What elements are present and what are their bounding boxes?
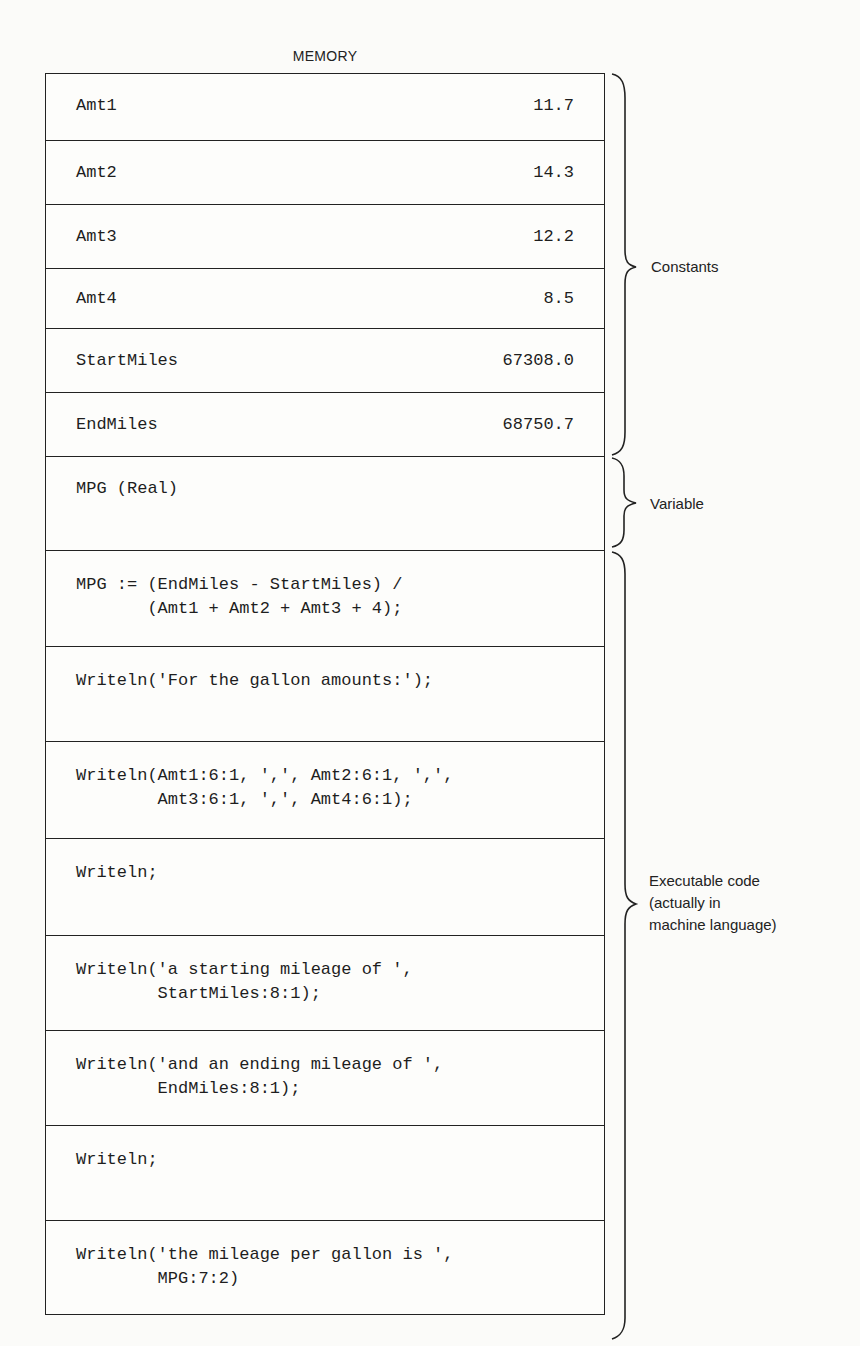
code-cell: Writeln('the mileage per gallon is ', MP…: [46, 1220, 604, 1314]
code-cell: Writeln(Amt1:6:1, ',', Amt2:6:1, ',', Am…: [46, 741, 604, 838]
memory-cell-amt1: Amt1 11.7: [46, 74, 604, 140]
cell-name: Amt4: [76, 289, 117, 308]
code-text: Writeln('the mileage per gallon is ', MP…: [76, 1243, 453, 1291]
executable-label-line3: machine language): [649, 915, 777, 935]
memory-cell-mpg-variable: MPG (Real): [46, 456, 604, 550]
cell-name: Amt1: [76, 96, 117, 115]
cell-name: Amt2: [76, 163, 117, 182]
variable-label: Variable: [650, 494, 704, 514]
executable-brace-icon: [612, 552, 636, 1339]
code-text: Writeln('For the gallon amounts:');: [76, 669, 433, 693]
memory-cell-startmiles: StartMiles 67308.0: [46, 328, 604, 392]
executable-label-line2: (actually in: [649, 893, 721, 913]
code-cell: Writeln('and an ending mileage of ', End…: [46, 1030, 604, 1125]
cell-name: Amt3: [76, 227, 117, 246]
code-text: Writeln('and an ending mileage of ', End…: [76, 1053, 443, 1101]
cell-value: 12.2: [533, 227, 574, 246]
memory-cell-amt4: Amt4 8.5: [46, 268, 604, 328]
memory-cell-amt2: Amt2 14.3: [46, 140, 604, 204]
code-cell: Writeln('a starting mileage of ', StartM…: [46, 935, 604, 1030]
code-text: Writeln(Amt1:6:1, ',', Amt2:6:1, ',', Am…: [76, 764, 453, 812]
code-text: Writeln('a starting mileage of ', StartM…: [76, 958, 413, 1006]
memory-block: Amt1 11.7 Amt2 14.3 Amt3 12.2 Amt4 8.5 S…: [45, 73, 605, 1315]
code-cell: Writeln;: [46, 838, 604, 935]
cell-name: StartMiles: [76, 351, 178, 370]
constants-label: Constants: [651, 257, 719, 277]
code-text: Writeln;: [76, 1148, 158, 1172]
code-cell: Writeln('For the gallon amounts:');: [46, 646, 604, 741]
constants-brace-icon: [612, 74, 636, 455]
code-text: Writeln;: [76, 861, 158, 885]
cell-value: 11.7: [533, 96, 574, 115]
cell-value: 67308.0: [503, 351, 574, 370]
memory-title: MEMORY: [45, 48, 605, 64]
code-cell: Writeln;: [46, 1125, 604, 1220]
code-text: MPG := (EndMiles - StartMiles) / (Amt1 +…: [76, 573, 402, 621]
cell-value: 14.3: [533, 163, 574, 182]
code-cell: MPG := (EndMiles - StartMiles) / (Amt1 +…: [46, 550, 604, 646]
cell-value: 68750.7: [503, 415, 574, 434]
memory-cell-endmiles: EndMiles 68750.7: [46, 392, 604, 456]
memory-cell-amt3: Amt3 12.2: [46, 204, 604, 268]
executable-label-line1: Executable code: [649, 871, 760, 891]
cell-name: EndMiles: [76, 415, 158, 434]
cell-value: 8.5: [543, 289, 574, 308]
variable-brace-icon: [612, 458, 636, 547]
cell-name: MPG (Real): [76, 479, 178, 498]
